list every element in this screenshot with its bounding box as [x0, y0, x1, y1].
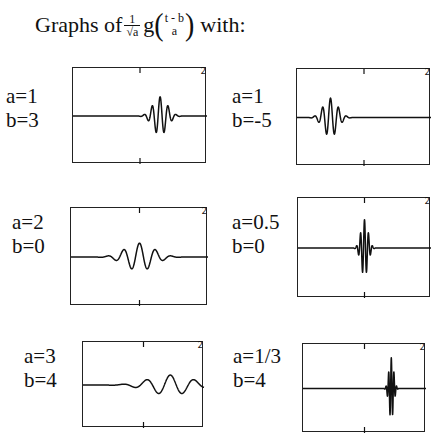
wavelet-plot	[83, 342, 204, 428]
a-label: a=1	[232, 84, 272, 108]
param-label: a=2b=0	[12, 210, 45, 258]
b-label: b=0	[12, 234, 45, 258]
fraction-denominator: √a	[124, 25, 140, 38]
right-paren: )	[185, 13, 194, 37]
b-label: b=4	[233, 368, 281, 392]
fraction-numerator: 1	[127, 13, 137, 25]
a-label: a=0.5	[232, 210, 279, 234]
a-label: a=2	[12, 210, 45, 234]
wavelet-curve	[298, 220, 431, 273]
wavelet-plot	[298, 198, 431, 298]
left-paren: (	[154, 13, 163, 37]
b-label: b=3	[6, 108, 39, 132]
title-prefix: Graphs of	[35, 12, 122, 38]
figure-title: Graphs of 1 √a g ( t - b a ) with:	[35, 12, 246, 38]
a-label: a=1/3	[233, 344, 281, 368]
argument-denominator: a	[169, 25, 180, 38]
wavelet-plot	[297, 69, 431, 166]
param-label: a=1b=3	[6, 84, 39, 132]
param-label: a=3b=4	[24, 344, 57, 392]
wavelet-curve	[73, 97, 207, 133]
title-suffix: with:	[200, 12, 245, 38]
corner-mark: 2	[425, 68, 430, 77]
corner-mark: 2	[420, 343, 425, 352]
plot-frame: 2	[302, 343, 425, 432]
wavelet-plot	[71, 208, 208, 306]
a-label: a=1	[6, 84, 39, 108]
plot-frame: 2	[72, 67, 206, 163]
argument-fraction: t - b a	[165, 12, 184, 38]
plot-frame: 2	[70, 207, 207, 305]
b-label: b=-5	[232, 108, 272, 132]
wavelet-curve	[297, 98, 431, 134]
sqrt-icon: √	[126, 25, 133, 39]
wavelet-plot	[303, 344, 426, 433]
param-label: a=1/3b=4	[233, 344, 281, 392]
b-label: b=0	[232, 234, 279, 258]
wavelet-curve	[71, 243, 208, 269]
corner-mark: 2	[201, 67, 206, 76]
function-name: g	[143, 12, 154, 38]
a-label: a=3	[24, 344, 57, 368]
wavelet-curve	[83, 375, 204, 393]
radicand: a	[133, 25, 138, 39]
plot-frame: 2	[82, 341, 203, 427]
corner-mark: 2	[425, 197, 430, 206]
corner-mark: 2	[202, 207, 207, 216]
corner-mark: 2	[198, 341, 203, 350]
param-label: a=1b=-5	[232, 84, 272, 132]
plot-frame: 2	[296, 68, 430, 165]
plot-frame: 2	[297, 197, 430, 297]
wavelet-plot	[73, 68, 207, 164]
wavelet-curve	[303, 358, 426, 415]
param-label: a=0.5b=0	[232, 210, 279, 258]
b-label: b=4	[24, 368, 57, 392]
normalization-fraction: 1 √a	[124, 13, 140, 38]
